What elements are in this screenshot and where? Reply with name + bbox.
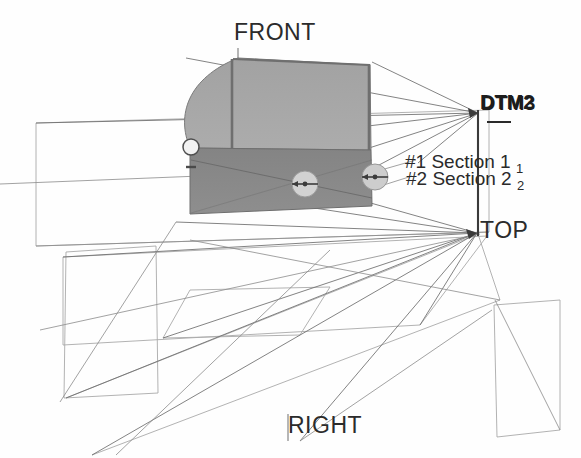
section-marker-1[interactable] [292, 171, 318, 197]
view-label-top[interactable]: TOP [480, 219, 528, 242]
proj-line-top-d [66, 233, 477, 398]
solid-lower-face [190, 148, 372, 214]
constr-line-6 [40, 234, 480, 330]
proj-line-top-e [92, 233, 477, 455]
proj-line-top-i [360, 200, 477, 233]
constr-line-1 [0, 176, 200, 184]
proj-line-top-g [420, 233, 477, 325]
constr-line-12 [495, 300, 560, 430]
constr-line-2 [60, 222, 176, 402]
dtm-anchor-arrow [468, 108, 478, 118]
section-2-suffix: 2 [517, 178, 524, 193]
section-label-2[interactable]: #2 Section 2 2 [406, 169, 524, 192]
section-marker-2[interactable] [362, 164, 388, 190]
proj-line-dtm-c [369, 113, 478, 148]
proj-line-dtm-b [372, 62, 478, 113]
datum-plane-aux [494, 300, 560, 437]
solid-upper-face [185, 58, 371, 150]
proj-line-top-f [300, 233, 477, 441]
top-anchor-arrow [466, 229, 477, 239]
vertex-point-icon[interactable] [183, 139, 199, 155]
section-2-name: Section 2 [432, 168, 511, 189]
view-label-front[interactable]: FRONT [234, 21, 316, 44]
constr-line-3 [190, 240, 500, 300]
proj-line-top-a [176, 222, 477, 233]
datum-label-dtm[interactable]: DTM3 [481, 93, 535, 113]
cad-viewport[interactable]: FRONT DTM2 DTM3 #1 Section 1 1 #2 Sectio… [0, 0, 581, 458]
section-2-id: #2 [406, 168, 427, 189]
view-label-right[interactable]: RIGHT [288, 414, 362, 437]
